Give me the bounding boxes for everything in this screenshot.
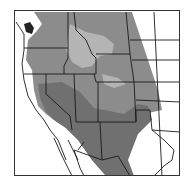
map-svg	[14, 10, 180, 176]
range-map	[14, 10, 180, 176]
